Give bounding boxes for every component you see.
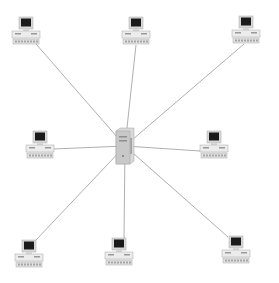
diagram-title: Star network topology [0,0,10,1]
server-tower-icon [116,128,134,164]
workstation-bottom-center [105,238,133,265]
desktop-computer-icon [15,240,43,267]
desktop-computer-icon [122,17,150,44]
workstation-middle-left [26,131,54,158]
workstation-bottom-right [222,236,250,263]
workstation-top-left [12,17,40,44]
network-devices [0,0,279,283]
server [116,128,134,164]
star-network-diagram: Star network topology [0,0,279,283]
desktop-computer-icon [105,238,133,265]
desktop-computer-icon [200,131,228,158]
desktop-computer-icon [26,131,54,158]
workstation-bottom-left [15,240,43,267]
workstation-middle-right [200,131,228,158]
desktop-computer-icon [12,17,40,44]
workstation-top-center [122,17,150,44]
desktop-computer-icon [232,16,260,43]
desktop-computer-icon [222,236,250,263]
workstation-top-right [232,16,260,43]
